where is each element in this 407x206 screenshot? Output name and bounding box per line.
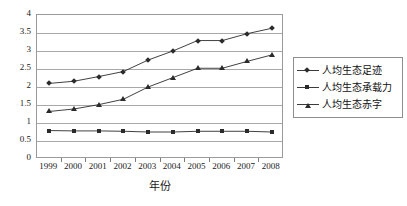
- legend-marker-diamond-icon: [297, 65, 319, 77]
- legend-item-footprint[interactable]: 人均生态足迹: [297, 62, 399, 79]
- series-line: [49, 131, 271, 132]
- y-axis-tick-label: 2.5: [0, 63, 31, 72]
- data-point-marker: [170, 75, 176, 80]
- data-point-marker: [244, 58, 250, 63]
- legend-label-footprint: 人均生态足迹: [319, 65, 382, 77]
- legend-item-deficit[interactable]: 人均生态赤字: [297, 96, 399, 113]
- y-axis-tick-label: 1: [0, 117, 31, 126]
- data-point-marker: [120, 96, 126, 101]
- x-axis-tick-label: 2008: [256, 161, 286, 172]
- data-point-marker: [171, 130, 175, 134]
- y-axis-tick-label: 3.5: [0, 27, 31, 36]
- data-point-marker: [97, 129, 101, 133]
- data-point-marker: [47, 129, 51, 133]
- data-point-marker: [270, 130, 274, 134]
- data-point-marker: [72, 129, 76, 133]
- legend-marker-triangle-icon: [297, 99, 319, 111]
- data-point-marker: [196, 129, 200, 133]
- y-axis-tick-label: 3: [0, 45, 31, 54]
- y-axis-tick-label: 1.5: [0, 99, 31, 108]
- y-axis-tick-label: 0.5: [0, 135, 31, 144]
- data-point-marker: [195, 65, 201, 70]
- legend-label-deficit: 人均生态赤字: [319, 99, 382, 111]
- data-point-marker: [71, 106, 77, 111]
- data-point-marker: [269, 52, 275, 57]
- legend-marker-square-icon: [297, 82, 319, 94]
- y-axis-tick-label: 2: [0, 81, 31, 90]
- data-point-marker: [46, 108, 52, 113]
- ecological-footprint-line-chart: 00.511.522.533.54 1999200020012002200320…: [0, 0, 407, 206]
- series-line: [49, 55, 271, 112]
- legend-label-carrying-capacity: 人均生态承载力: [319, 82, 392, 94]
- data-point-marker: [96, 102, 102, 107]
- legend-item-carrying-capacity[interactable]: 人均生态承载力: [297, 79, 399, 96]
- chart-legend: 人均生态足迹 人均生态承载力 人均生态赤字: [293, 57, 403, 118]
- data-point-marker: [245, 129, 249, 133]
- data-point-marker: [121, 129, 125, 133]
- data-point-marker: [219, 65, 225, 70]
- plot-area: [36, 14, 283, 158]
- x-axis-title: 年份: [36, 180, 283, 193]
- series-line: [49, 28, 271, 83]
- data-point-marker: [145, 84, 151, 89]
- data-point-marker: [146, 130, 150, 134]
- y-axis-tick-label: 0: [0, 153, 31, 162]
- x-axis-labels: 1999200020012002200320042005200620072008: [36, 161, 283, 175]
- y-axis-tick-label: 4: [0, 9, 31, 18]
- y-axis-labels: 00.511.522.533.54: [0, 0, 33, 206]
- data-point-marker: [220, 129, 224, 133]
